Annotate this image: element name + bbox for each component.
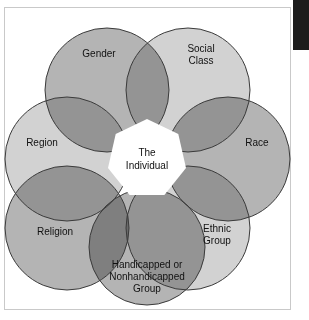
venn-label-line: Class — [188, 55, 213, 66]
corner-mark — [293, 0, 309, 50]
venn-label-line: Handicapped or — [112, 259, 183, 270]
venn-label-line: Social — [187, 43, 214, 54]
venn-label-line: Gender — [82, 48, 116, 59]
venn-center-label-line: The — [138, 147, 156, 158]
venn-label-region: Region — [26, 137, 58, 148]
venn-label-line: Region — [26, 137, 58, 148]
venn-label-line: Religion — [37, 226, 73, 237]
venn-label-race: Race — [245, 137, 269, 148]
diagram-page: GenderSocialClassRaceEthnicGroupHandicap… — [0, 0, 309, 320]
venn-diagram: GenderSocialClassRaceEthnicGroupHandicap… — [4, 7, 291, 310]
venn-label-line: Group — [203, 235, 231, 246]
venn-center-label-line: Individual — [126, 160, 168, 171]
venn-label-social-class: SocialClass — [187, 43, 214, 66]
venn-label-gender: Gender — [82, 48, 116, 59]
venn-label-ethnic-group: EthnicGroup — [203, 223, 231, 246]
venn-label-line: Race — [245, 137, 269, 148]
venn-label-line: Nonhandicapped — [109, 271, 185, 282]
venn-label-religion: Religion — [37, 226, 73, 237]
venn-label-line: Group — [133, 283, 161, 294]
venn-label-line: Ethnic — [203, 223, 231, 234]
